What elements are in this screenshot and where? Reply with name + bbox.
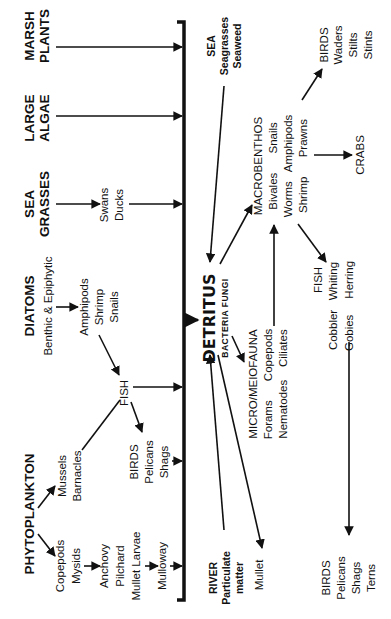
svg-text:BACTERIA FUNGI: BACTERIA FUNGI <box>220 278 230 357</box>
node-fish-left: FISH <box>118 380 130 406</box>
svg-text:Swans: Swans <box>98 187 110 222</box>
svg-text:MACROBENTHOS: MACROBENTHOS <box>252 116 264 215</box>
svg-text:Shrimp Prawns: Shrimp Prawns <box>297 119 309 213</box>
node-phytoplankton: PHYTOPLANKTON <box>22 453 37 574</box>
svg-text:Benthic & Epiphytic: Benthic & Epiphytic <box>42 256 54 355</box>
node-sea-source: SEA Seagrasses Seaweed <box>205 17 243 76</box>
node-river-source: RIVER Particulate matter <box>207 551 245 605</box>
svg-text:BIRDS: BIRDS <box>320 560 332 595</box>
svg-text:ALGAE: ALGAE <box>37 94 52 141</box>
svg-text:matter: matter <box>233 562 245 594</box>
svg-text:Mullet: Mullet <box>253 559 265 590</box>
node-swans-ducks: Swans Ducks <box>98 187 125 222</box>
svg-text:Seaweed: Seaweed <box>231 24 243 69</box>
svg-text:Copepods: Copepods <box>54 540 66 593</box>
svg-text:Amphipods: Amphipods <box>78 278 90 336</box>
svg-text:Terns: Terns <box>365 564 377 592</box>
svg-text:FISH: FISH <box>118 380 130 406</box>
svg-text:Shags: Shags <box>350 561 362 594</box>
svg-text:Pelicans: Pelicans <box>335 556 347 600</box>
food-web-diagram: MARSH PLANTS LARGE ALGAE SEA GRASSES DIA… <box>0 0 391 619</box>
svg-text:DIATOMS: DIATOMS <box>22 275 37 336</box>
svg-text:CRABS: CRABS <box>354 135 366 175</box>
svg-text:FISH: FISH <box>312 267 324 293</box>
svg-text:SEA: SEA <box>22 190 37 218</box>
svg-text:Shrimp: Shrimp <box>93 289 105 325</box>
svg-text:Shags: Shags <box>158 445 170 478</box>
svg-text:MICRO/MEIOFAUNA: MICRO/MEIOFAUNA <box>247 329 259 439</box>
svg-text:Nematodes Ciliates: Nematodes Ciliates <box>277 329 289 439</box>
svg-text:RIVER: RIVER <box>207 562 219 595</box>
svg-text:MARSH: MARSH <box>22 11 37 61</box>
svg-text:Mullet Larvae: Mullet Larvae <box>130 531 142 600</box>
node-sea-grasses: SEA GRASSES <box>22 171 52 237</box>
svg-text:Mussels: Mussels <box>56 455 68 497</box>
node-birds-pelicans-shags: BIRDS Pelicans Shags <box>128 440 170 484</box>
svg-text:DETRITUS: DETRITUS <box>200 274 219 363</box>
node-macrobenthos: MACROBENTHOS Bivales Snails Worms Amphip… <box>252 114 309 217</box>
collector-bracket <box>177 22 184 600</box>
svg-text:Seagrasses: Seagrasses <box>218 17 230 76</box>
node-mullet: Mullet <box>253 559 265 590</box>
svg-text:Gobies Herring: Gobies Herring <box>343 261 355 351</box>
node-crabs: CRABS <box>354 135 366 175</box>
svg-text:Stilts: Stilts <box>347 32 359 57</box>
svg-text:Barnacles: Barnacles <box>71 450 83 501</box>
svg-text:PHYTOPLANKTON: PHYTOPLANKTON <box>22 453 37 574</box>
svg-text:BIRDS: BIRDS <box>128 444 140 479</box>
node-mussels-barnacles: Mussels Barnacles <box>56 450 83 501</box>
node-fish-right: FISH Cobbler Whiting Gobies Herring <box>312 261 355 351</box>
node-birds-terns: BIRDS Pelicans Shags Terns <box>320 556 377 600</box>
svg-text:Pelicans: Pelicans <box>143 440 155 484</box>
svg-text:Waders: Waders <box>332 25 344 64</box>
svg-text:SEA: SEA <box>205 35 217 57</box>
svg-text:GRASSES: GRASSES <box>37 171 52 237</box>
svg-text:PLANTS: PLANTS <box>37 9 52 63</box>
node-large-algae: LARGE ALGAE <box>22 94 52 141</box>
svg-text:Mysids: Mysids <box>70 548 82 584</box>
node-birds-waders: BIRDS Waders Stilts Stints <box>318 25 374 64</box>
svg-text:Pilchard: Pilchard <box>114 545 126 587</box>
svg-text:Ducks: Ducks <box>113 189 125 221</box>
node-anchovy-pilchard-mullet-larvae: Anchovy Pilchard Mullet Larvae <box>98 531 142 600</box>
node-diatoms: DIATOMS Benthic & Epiphytic <box>22 256 54 355</box>
svg-text:Worms Amphipods: Worms Amphipods <box>282 114 294 217</box>
svg-text:Cobbler Whiting: Cobbler Whiting <box>327 262 339 350</box>
svg-text:LARGE: LARGE <box>22 94 37 141</box>
svg-text:Forams Copepods: Forams Copepods <box>262 328 274 439</box>
svg-text:Stints: Stints <box>362 30 374 59</box>
node-copepods-mysids: Copepods Mysids <box>54 540 82 593</box>
node-amphipods-shrimp-snails: Amphipods Shrimp Snails <box>78 278 120 336</box>
svg-text:Particulate: Particulate <box>220 551 232 605</box>
node-detritus: DETRITUS BACTERIA FUNGI <box>200 274 230 363</box>
svg-text:Bivales Snails: Bivales Snails <box>267 122 279 210</box>
svg-text:BIRDS: BIRDS <box>318 27 330 62</box>
node-micro-meiofauna: MICRO/MEIOFAUNA Forams Copepods Nematode… <box>247 328 289 439</box>
svg-text:Snails: Snails <box>108 291 120 323</box>
node-marsh-plants: MARSH PLANTS <box>22 9 52 63</box>
